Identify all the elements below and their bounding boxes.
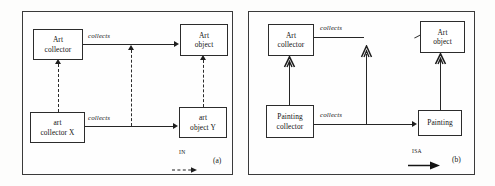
- node-label-line1: Art: [199, 31, 209, 40]
- legend-dashed-arrow-icon: [172, 160, 200, 178]
- node-label-line1: Painting: [277, 112, 302, 121]
- node-painting-collector[interactable]: Painting collector: [266, 105, 314, 138]
- node-label-line2: object: [195, 40, 214, 49]
- node-label-line2: collector: [278, 40, 305, 49]
- node-label-line1: Painting: [427, 118, 452, 127]
- node-art-collector-x[interactable]: art collector X: [30, 112, 85, 143]
- edge-paintingcollector-to-painting-b: [314, 124, 413, 125]
- node-label-line2: collector: [277, 122, 304, 131]
- node-label-line2: collector: [45, 45, 72, 54]
- arrowhead-right-icon: [174, 41, 179, 47]
- node-art-collector-a[interactable]: Art collector: [33, 29, 83, 60]
- node-label-line1: Art: [437, 28, 447, 37]
- node-art-collector-b[interactable]: Art collector: [268, 24, 314, 56]
- node-label-line2: object Y: [190, 123, 216, 132]
- isa-arrowhead-up-icon: [283, 54, 296, 72]
- node-label-line1: Art: [53, 35, 63, 44]
- node-label-line1: art: [199, 113, 207, 122]
- panel-caption-b: (b): [452, 155, 461, 164]
- node-art-object-b[interactable]: Art object: [420, 21, 465, 53]
- node-label-line1: Art: [286, 31, 296, 40]
- edge-collectorx-to-objecty-a: [85, 126, 174, 127]
- panel-caption-a: (a): [213, 156, 221, 165]
- in-link-collectorx: [58, 64, 59, 112]
- node-label-line2: collector X: [40, 128, 74, 137]
- arrowhead-right-icon: [173, 123, 178, 129]
- edge-label-collects-bottom-b: collects: [320, 111, 342, 119]
- legend-solid-arrow-icon: [408, 157, 442, 175]
- isa-arrowhead-up-icon: [360, 44, 373, 62]
- arrowhead-right-icon: [412, 121, 417, 127]
- node-art-object-y[interactable]: art object Y: [179, 107, 227, 138]
- legend-label-isa: ISA: [412, 148, 422, 154]
- isa-arrowhead-up-icon: [434, 51, 447, 69]
- legend-label-in: IN: [179, 149, 186, 155]
- node-art-object-a[interactable]: Art object: [180, 24, 228, 56]
- arrowhead-up-icon: [128, 45, 134, 50]
- in-link-objecty: [203, 60, 204, 107]
- node-painting[interactable]: Painting: [418, 110, 462, 136]
- edge-label-collects-top-b: collects: [320, 24, 342, 32]
- in-link-relationship: [131, 50, 132, 126]
- edge-collector-relation-b: [314, 37, 364, 38]
- node-label-line2: object: [433, 37, 452, 46]
- edge-label-collects-bottom-a: collects: [88, 114, 110, 122]
- edge-label-collects-top-a: collects: [88, 32, 110, 40]
- isa-link-relationship-b: [366, 54, 367, 124]
- node-label-line1: art: [53, 118, 61, 127]
- figure-canvas: Art collector Art object art collector X…: [0, 0, 495, 186]
